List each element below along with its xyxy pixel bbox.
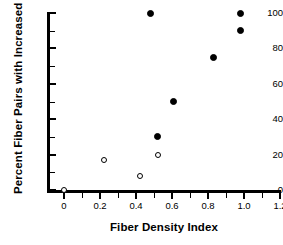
x-axis-minor-tick bbox=[262, 193, 263, 198]
x-axis-major-tick bbox=[135, 193, 137, 199]
x-axis-minor-tick bbox=[190, 193, 191, 198]
x-axis-title: Fiber Density Index bbox=[47, 221, 281, 233]
scatter-plot-figure: 020406080100 00.20.40.60.81.01.2 Fiber D… bbox=[0, 0, 283, 245]
x-axis-tick-label: 1.0 bbox=[229, 200, 259, 211]
x-axis-tick-label: 0.8 bbox=[193, 200, 223, 211]
data-point-filled bbox=[237, 10, 244, 17]
x-axis-tick-label: 0.6 bbox=[157, 200, 187, 211]
x-axis-minor-tick bbox=[226, 193, 227, 198]
x-axis-minor-tick bbox=[154, 193, 155, 198]
data-point-filled bbox=[154, 133, 161, 140]
data-point-open bbox=[137, 173, 143, 179]
data-point-filled bbox=[170, 98, 177, 105]
x-axis-major-tick bbox=[243, 193, 245, 199]
x-axis-major-tick bbox=[207, 193, 209, 199]
x-axis-major-tick bbox=[279, 193, 281, 199]
x-axis-tick-label: 0.2 bbox=[85, 200, 115, 211]
x-axis-major-tick bbox=[171, 193, 173, 199]
x-axis-minor-tick bbox=[118, 193, 119, 198]
x-axis-minor-tick bbox=[82, 193, 83, 198]
data-point-open bbox=[101, 157, 107, 163]
data-point-filled bbox=[147, 10, 154, 17]
x-axis-tick-label: 0.4 bbox=[121, 200, 151, 211]
data-point-open bbox=[155, 152, 161, 158]
y-axis-title: Percent Fiber Pairs with Increased Jitte… bbox=[12, 0, 24, 194]
x-axis-tick-label: 0 bbox=[49, 200, 79, 211]
x-axis-major-tick bbox=[63, 193, 65, 199]
data-point-filled bbox=[237, 27, 244, 34]
x-axis-tick-label: 1.2 bbox=[265, 200, 283, 211]
x-axis-major-tick bbox=[99, 193, 101, 199]
data-point-open bbox=[61, 187, 67, 193]
data-point-filled bbox=[210, 54, 217, 61]
plot-area bbox=[47, 12, 281, 193]
